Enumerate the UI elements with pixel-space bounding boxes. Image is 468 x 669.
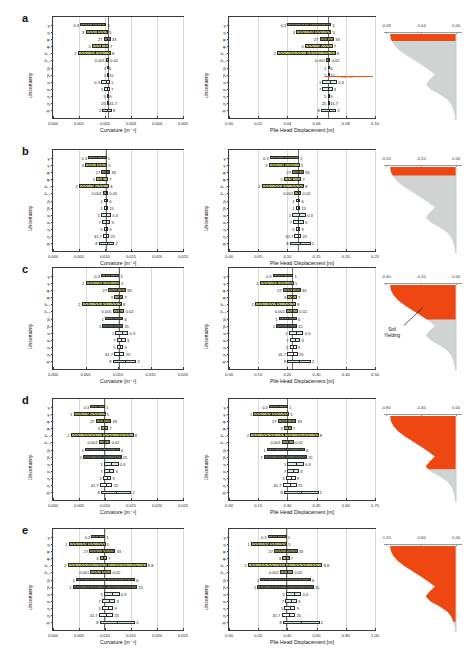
box-median-ψ₁	[301, 621, 302, 625]
param-label-γ₂: γ₂	[37, 411, 51, 416]
xticklabel-0: 0.000	[48, 121, 58, 126]
param-label-φ₂: φ₂	[213, 426, 227, 431]
ytick-12	[227, 492, 229, 493]
param-label-γ₂: γ₂	[37, 29, 51, 34]
ytick-7	[227, 208, 229, 209]
box-label-high-η₂: 25	[297, 613, 301, 618]
box-label-high-β₁: 6	[121, 447, 123, 452]
box-label-high-φ₂: 7	[291, 556, 293, 561]
param-label-η₁: η₁	[213, 476, 227, 481]
violin-plot-e: -1.20-0.600.00	[378, 528, 464, 638]
displacement-plot-d: 0.3115273337280.0010.021611510.3735941.7…	[228, 398, 376, 501]
param-label-γ₂: γ₂	[213, 162, 227, 167]
ytick-1	[227, 32, 229, 33]
box-label-high-β₁: 6	[312, 577, 314, 582]
xticklabel-4: 0.40	[342, 372, 350, 377]
box-label-low-η₁: 5	[99, 476, 101, 481]
param-label-η₁: η₁	[37, 94, 51, 99]
box-label-low-η₂: 41.7	[273, 613, 281, 618]
ytick-1	[51, 414, 53, 415]
ytick-12	[227, 243, 229, 244]
box-median-γ₁	[277, 535, 278, 539]
ytick-11	[227, 103, 229, 104]
param-label-kₑ,₂: kₑ,₂	[213, 309, 227, 314]
box-label-low-ψ₁: 8	[96, 620, 98, 625]
box-label-high-φ₂: 7	[124, 295, 126, 300]
violin-plot-d: -0.80-0.400.00	[378, 398, 464, 508]
ytick-0	[227, 407, 229, 408]
ytick-7	[51, 457, 53, 458]
param-label-β₂: β₂	[213, 584, 227, 589]
xtick-3	[131, 498, 132, 501]
param-label-φ₂: φ₂	[213, 556, 227, 561]
xticklabel-3: 0.003	[126, 121, 136, 126]
box-label-low-kₑ,₂: 0.001	[88, 440, 98, 445]
box-label-low-γ₂: 1	[250, 411, 252, 416]
box-label-high-φ₁: 33	[111, 169, 115, 174]
box-median-ψ₁	[116, 491, 117, 495]
box-label-high-ψ₁: 2	[116, 241, 118, 246]
box-median-γ₂	[284, 163, 285, 167]
param-label-φ₂: φ₂	[213, 44, 227, 49]
box-label-high-kₑ,₂: 0.02	[126, 309, 134, 314]
box-label-high-φ₂: 7	[334, 44, 336, 49]
ytick-3	[51, 558, 53, 559]
box-label-low-ψ₁: 2	[99, 108, 101, 113]
box-label-high-α₂: 3	[111, 219, 113, 224]
box-label-low-η₁: 5	[98, 606, 100, 611]
gridline-5	[375, 268, 376, 369]
box-median-β₁	[114, 317, 115, 321]
box-median-kₑ,₁	[306, 51, 307, 55]
box-median-β₁	[106, 199, 107, 203]
box-label-high-α₂: 3	[127, 337, 129, 342]
box-label-high-φ₁: 33	[305, 169, 309, 174]
ytick-6	[51, 319, 53, 320]
box-label-high-β₂: 15	[124, 323, 128, 328]
param-label-ψ₁: ψ₁	[213, 359, 227, 364]
param-label-α₁: α₁	[37, 591, 51, 596]
box-median-η₁	[291, 476, 292, 480]
box-label-high-φ₂: 7	[108, 556, 110, 561]
box-median-γ₁	[309, 23, 310, 27]
xticklabel-5: 0.025	[178, 633, 188, 638]
ytick-7	[51, 587, 53, 588]
box-label-high-γ₂: 5	[121, 280, 123, 285]
box-median-φ₂	[102, 177, 103, 181]
box-label-high-β₁: 6	[109, 65, 111, 70]
ytick-2	[227, 551, 229, 552]
box-median-β₁	[286, 448, 287, 452]
box-label-high-γ₁: 1	[332, 22, 334, 27]
ytick-6	[227, 68, 229, 69]
box-label-low-α₁: 1	[283, 591, 285, 596]
box-median-φ₂	[101, 44, 102, 48]
box-median-β₂	[285, 455, 286, 459]
param-label-φ₁: φ₁	[213, 548, 227, 553]
box-label-low-β₂: 1	[273, 323, 275, 328]
box-label-low-γ₂: 3	[82, 162, 84, 167]
box-label-low-kₑ,₂: 0.001	[315, 58, 325, 63]
box-label-low-η₂: 25	[101, 101, 105, 106]
box-kₑ,₁	[262, 184, 304, 188]
param-label-kₑ,₂: kₑ,₂	[37, 570, 51, 575]
box-label-high-kₑ,₂: 0.02	[111, 440, 119, 445]
ytick-4	[227, 435, 229, 436]
y-axis-title-left: Uncertainty	[27, 206, 33, 231]
ytick-2	[51, 551, 53, 552]
xticklabel-2: 0.002	[100, 121, 110, 126]
box-median-kₑ,₂	[287, 570, 288, 574]
box-label-low-β₁: 1	[324, 65, 326, 70]
param-label-φ₂: φ₂	[213, 295, 227, 300]
box-label-high-ψ₁: 2	[312, 241, 314, 246]
box-label-low-γ₂: 3	[265, 162, 267, 167]
box-label-high-η₂: 41.7	[109, 101, 117, 106]
xticklabel-0: 0.00	[225, 503, 233, 508]
violin-distribution	[378, 398, 464, 508]
panel-label-c: c	[22, 263, 28, 275]
ytick-5	[227, 311, 229, 312]
gridline-5	[183, 17, 184, 118]
param-label-ψ₁: ψ₁	[37, 490, 51, 495]
box-median-φ₂	[119, 295, 120, 299]
xtick-3	[317, 367, 318, 370]
box-median-β₁	[328, 66, 329, 70]
ytick-2	[51, 290, 53, 291]
